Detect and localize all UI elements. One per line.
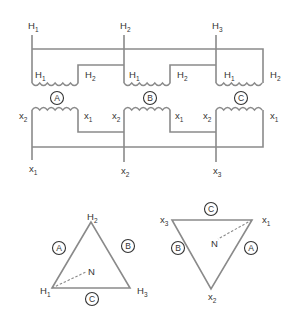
primary-delta-vertex-bottom-left: H1	[40, 285, 51, 298]
secondary-delta-side-c-marker: C	[205, 203, 218, 216]
transformer-wiring-diagram: H1 H2 H3 H1 H2 H1 H2 H1 H2 A B	[0, 0, 289, 315]
svg-text:C: C	[89, 294, 95, 304]
secondary-bottom-bus	[32, 110, 263, 147]
primary-winding-section: H1 H2 H3 H1 H2 H1 H2 H1 H2	[28, 20, 281, 86]
phase-markers: A B C	[51, 92, 248, 105]
primary-coil-a-h1-label: H1	[35, 69, 46, 82]
svg-text:A: A	[56, 243, 62, 253]
primary-coil-c	[216, 83, 262, 86]
primary-coil-b-h1-label: H1	[129, 69, 140, 82]
primary-delta-vertex-bottom-right: H3	[137, 285, 148, 298]
phase-marker-b: B	[144, 92, 157, 105]
secondary-delta-triangle: N x3 x1 x2 C B A	[160, 203, 271, 304]
primary-delta-side-b-marker: B	[122, 240, 135, 253]
terminal-label-h3: H3	[212, 20, 223, 33]
terminal-label-h2: H2	[120, 20, 131, 33]
secondary-delta-vertex-top-right: x1	[262, 214, 271, 227]
phase-marker-a: A	[51, 92, 64, 105]
secondary-delta-side-b-marker: B	[172, 242, 185, 255]
primary-coil-b-h2-label: H2	[177, 69, 188, 82]
terminal-label-x1: x1	[29, 163, 38, 176]
svg-text:B: B	[125, 241, 131, 251]
secondary-coil-a-x2-label: x2	[19, 110, 28, 123]
svg-text:A: A	[248, 243, 254, 253]
primary-coil-b	[124, 83, 170, 86]
secondary-delta-side-a-marker: A	[245, 242, 258, 255]
terminal-label-h1: H1	[28, 20, 39, 33]
secondary-coil-c	[216, 108, 262, 111]
primary-delta-triangle: N H2 H1 H3 A B C	[40, 211, 148, 306]
primary-delta-vertex-top: H2	[87, 211, 98, 224]
secondary-delta-vertex-top-left: x3	[160, 214, 169, 227]
terminal-label-x2: x2	[121, 165, 130, 178]
primary-coil-a-h2-label: H2	[85, 69, 96, 82]
secondary-coil-c-x2-label: x2	[203, 110, 212, 123]
secondary-coil-a-x1-label: x1	[84, 110, 93, 123]
primary-delta-side-a-marker: A	[53, 242, 66, 255]
primary-delta-side-c-marker: C	[86, 293, 99, 306]
secondary-delta-outline	[172, 220, 252, 289]
terminal-label-x3: x3	[213, 165, 222, 178]
secondary-coil-b-x1-label: x1	[175, 110, 184, 123]
phase-marker-c: C	[235, 92, 248, 105]
svg-text:C: C	[238, 93, 244, 103]
svg-text:B: B	[147, 93, 153, 103]
secondary-coil-b-x2-label: x2	[112, 110, 121, 123]
secondary-winding-section: x2 x1 x2 x1 x2 x1 x1 x2 x3	[19, 108, 279, 178]
svg-text:C: C	[208, 204, 214, 214]
primary-coil-c-h2-label: H2	[270, 69, 281, 82]
svg-text:B: B	[175, 243, 181, 253]
secondary-coil-a	[32, 108, 78, 111]
primary-neutral-label: N	[88, 266, 95, 277]
primary-coil-c-h1-label: H1	[224, 69, 235, 82]
secondary-coil-c-x1-label: x1	[270, 110, 279, 123]
primary-coil-a	[32, 83, 78, 86]
secondary-delta-vertex-bottom: x2	[208, 291, 217, 304]
primary-delta-outline	[52, 222, 130, 288]
secondary-coil-b	[124, 108, 170, 111]
svg-text:A: A	[54, 93, 60, 103]
secondary-neutral-label: N	[211, 238, 218, 249]
